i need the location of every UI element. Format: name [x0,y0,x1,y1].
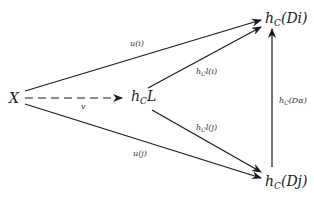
arrow-hc-l-j [152,110,261,172]
label-u-j: u(j) [133,150,147,158]
node-hc-dj-rest: (Dj) [281,173,308,189]
node-hc-di: hC(Di) [265,11,308,28]
node-hc-di-rest: (Di) [281,10,308,26]
label-v: v [81,103,86,111]
label-u-i: u(i) [130,40,144,48]
node-hc-di-base: h [265,10,274,26]
label-hc-l-i: hCl(i) [196,68,217,77]
label-hc-l-j-rest: l(j) [206,123,217,132]
diagram-arrows [0,0,314,197]
arrow-hc-l-i [148,27,261,88]
label-hc-l-i-rest: l(i) [206,67,217,76]
node-hc-dj: hC(Dj) [265,174,307,191]
node-hc-di-sub: C [274,18,281,28]
node-hc-l-rest: L [147,88,156,104]
node-hc-dj-sub: C [274,181,281,191]
node-hc-l-base: h [131,88,140,104]
label-hc-d-alpha: hC(Dα) [279,97,307,106]
label-hc-l-j: hCl(j) [196,124,217,133]
node-x: X [9,91,19,105]
node-hc-l-sub: C [140,96,147,106]
arrow-u-i [25,20,261,91]
node-hc-l: hCL [131,89,156,106]
arrow-u-j [25,104,261,178]
node-hc-dj-base: h [265,173,274,189]
label-hc-d-alpha-rest: (Dα) [289,96,307,105]
